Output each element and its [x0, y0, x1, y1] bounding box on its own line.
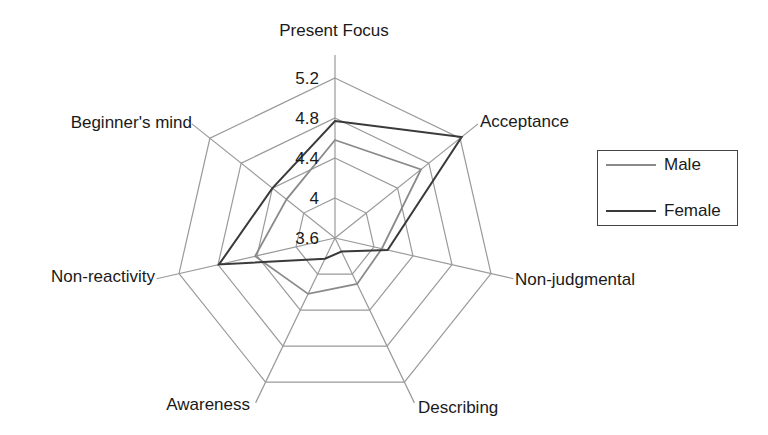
legend: Male Female — [597, 150, 738, 226]
legend-item-male: Male — [606, 155, 701, 175]
tick-label: 5.2 — [295, 69, 319, 88]
axis-spoke — [192, 124, 335, 238]
axis-label: Acceptance — [480, 112, 569, 131]
legend-label-female: Female — [664, 201, 721, 221]
tick-label: 4 — [310, 189, 319, 208]
axis-label: Present Focus — [279, 21, 389, 40]
axis-label: Describing — [418, 398, 498, 417]
axis-spoke — [335, 238, 414, 403]
tick-label: 4.4 — [295, 149, 319, 168]
legend-label-male: Male — [664, 155, 701, 175]
legend-swatch-female — [606, 210, 656, 212]
tick-label: 4.8 — [295, 109, 319, 128]
radar-grid — [157, 55, 514, 403]
legend-item-female: Female — [606, 201, 721, 221]
axis-spoke — [335, 238, 513, 279]
axis-labels: Present FocusAcceptanceNon-judgmentalDes… — [51, 21, 635, 417]
tick-label: 3.6 — [295, 229, 319, 248]
axis-label: Non-judgmental — [515, 270, 635, 289]
axis-label: Beginner's mind — [71, 113, 192, 132]
legend-swatch-male — [606, 164, 656, 166]
radar-series — [219, 121, 462, 294]
axis-label: Awareness — [166, 395, 250, 414]
series-male — [255, 140, 421, 294]
axis-label: Non-reactivity — [51, 267, 155, 286]
